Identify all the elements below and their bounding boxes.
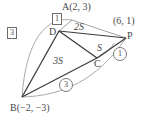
label-area-s: S — [97, 43, 102, 53]
label-point-p: P — [127, 31, 133, 41]
label-point-b: B(−2, −3) — [10, 103, 50, 113]
ratio-box-1: 1 — [52, 13, 62, 25]
label-coord-p: (6, 1) — [113, 16, 135, 26]
geometry-figure-canvas: A(2, 3) D (6, 1) P C B(−2, −3) 2S S 3S 1… — [0, 0, 148, 123]
ratio-circle-1: 1 — [113, 47, 127, 61]
arc-b-to-p — [22, 38, 126, 97]
label-point-c: C — [94, 59, 101, 69]
label-point-d: D — [49, 27, 56, 37]
segment-d-c-line — [59, 31, 97, 58]
ratio-box-3: 3 — [7, 27, 17, 39]
label-area-2s: 2S — [74, 22, 84, 32]
label-point-a: A(2, 3) — [62, 2, 91, 12]
ratio-circle-3: 3 — [59, 78, 73, 92]
label-area-3s: 3S — [53, 56, 63, 66]
